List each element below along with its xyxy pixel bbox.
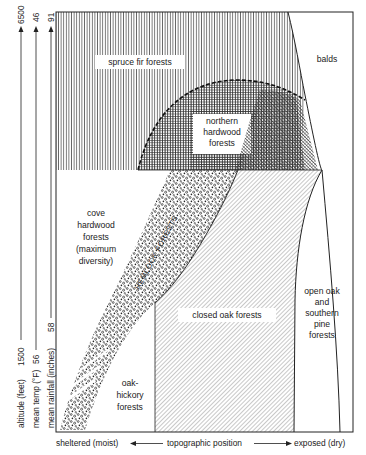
temp-high: 46 <box>31 12 41 22</box>
label-balds: balds <box>317 54 338 64</box>
label-spruce-fir: spruce fir forests <box>108 57 172 67</box>
label-cove-1: cove <box>87 208 105 218</box>
axis-temp: 46 mean temp (°F) 56 <box>31 12 41 428</box>
label-cove-5: diversity) <box>79 256 114 266</box>
x-center-label: topographic position <box>167 438 242 448</box>
temp-low: 56 <box>31 354 41 364</box>
rainfall-label: mean rainfall (inches) <box>46 348 56 428</box>
label-open-oak-1: open oak <box>304 286 340 296</box>
label-northern-hardwood-2: hardwood <box>203 127 241 137</box>
label-open-oak-5: forests <box>309 330 335 340</box>
altitude-label: altitude (feet) <box>16 379 26 428</box>
axis-rainfall: 91 mean rainfall (inches) 58 <box>46 12 56 428</box>
altitude-low: 1500 <box>16 347 26 366</box>
rainfall-high: 91 <box>46 12 56 22</box>
label-open-oak-3: southern <box>305 308 339 318</box>
label-oak-hickory-3: forests <box>117 402 143 412</box>
label-cove-3: forests <box>83 232 109 242</box>
label-northern-hardwood-3: forests <box>209 138 235 148</box>
label-cove-4: (maximum <box>76 244 116 254</box>
label-closed-oak: closed oak forests <box>192 310 261 320</box>
x-right-label: exposed (dry) <box>294 438 345 448</box>
label-oak-hickory-2: hickory <box>116 390 144 400</box>
rainfall-low: 58 <box>46 322 56 332</box>
label-open-oak-2: and <box>315 297 330 307</box>
axis-topographic: sheltered (moist) topographic position e… <box>56 438 345 448</box>
vegetation-diagram: spruce fir forests balds northern hardwo… <box>0 0 366 455</box>
label-cove-2: hardwood <box>77 220 115 230</box>
altitude-high: 6500 <box>16 5 26 24</box>
x-left-label: sheltered (moist) <box>56 438 119 448</box>
label-oak-hickory-1: oak- <box>122 378 139 388</box>
label-open-oak-4: pine <box>314 319 330 329</box>
axis-altitude: 6500 altitude (feet) 1500 <box>16 5 26 428</box>
label-northern-hardwood-1: northern <box>206 116 238 126</box>
temp-label: mean temp (°F) <box>31 370 41 428</box>
